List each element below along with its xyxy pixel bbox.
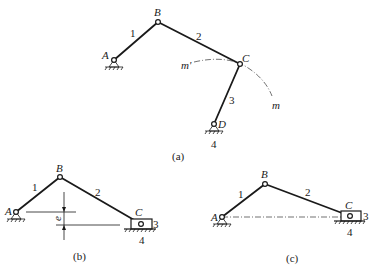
joint-b-a: [156, 20, 161, 25]
link-label-2: 2: [305, 186, 311, 198]
link-label-3: 3: [153, 218, 159, 230]
link-label-1: 1: [32, 181, 38, 193]
dimension-arrow-up-icon: [62, 225, 66, 230]
joint-a-a: [112, 58, 117, 63]
link-1-c: [222, 184, 265, 217]
subfigure-b: e: [4, 162, 159, 263]
link-1-b: [16, 177, 60, 212]
link-label-4: 4: [139, 234, 145, 246]
offset-label-e: e: [51, 216, 63, 221]
dimension-arrow-down-icon: [62, 207, 66, 212]
joint-c-c: [348, 214, 353, 219]
guide-rail-icon: [334, 221, 365, 224]
link-label-2: 2: [196, 30, 202, 42]
link-3-a: [214, 64, 240, 124]
point-label-b: B: [261, 168, 268, 180]
point-label-d: D: [217, 118, 226, 130]
arc-label-m-prime: m': [181, 59, 192, 71]
joint-b-b: [58, 175, 63, 180]
arc-label-m: m: [272, 99, 280, 111]
joint-a-b: [14, 210, 19, 215]
subfigure-c: A B C 1 2 3 4 (c): [210, 168, 369, 265]
trajectory-arc: [194, 59, 272, 96]
caption-b: (b): [73, 250, 86, 263]
link-label-3: 3: [363, 210, 369, 222]
link-label-4: 4: [211, 138, 217, 150]
point-label-a: A: [4, 205, 12, 217]
subfigure-a: A B C D 1 2 3 4 m' m (a): [101, 6, 280, 163]
point-label-c: C: [135, 206, 143, 218]
point-label-c: C: [242, 52, 250, 64]
link-2-a: [158, 22, 240, 64]
link-label-3: 3: [229, 94, 235, 106]
point-label-b: B: [154, 6, 161, 18]
point-label-c: C: [345, 199, 353, 211]
point-label-a: A: [210, 211, 218, 223]
point-label-a: A: [101, 49, 109, 61]
link-label-2: 2: [95, 186, 101, 198]
link-label-4: 4: [347, 226, 353, 238]
caption-c: (c): [286, 252, 299, 265]
mechanism-figure: A B C D 1 2 3 4 m' m (a) e: [0, 0, 374, 273]
caption-a: (a): [172, 150, 185, 163]
link-label-1: 1: [130, 27, 136, 39]
link-2-b: [60, 177, 141, 224]
joint-b-c: [263, 182, 268, 187]
joint-d-a: [212, 122, 217, 127]
point-label-b: B: [56, 162, 63, 174]
joint-a-c: [220, 215, 225, 220]
link-label-1: 1: [238, 188, 244, 200]
joint-c-b: [139, 222, 144, 227]
guide-rail-icon: [124, 229, 156, 232]
link-1-a: [114, 22, 158, 60]
